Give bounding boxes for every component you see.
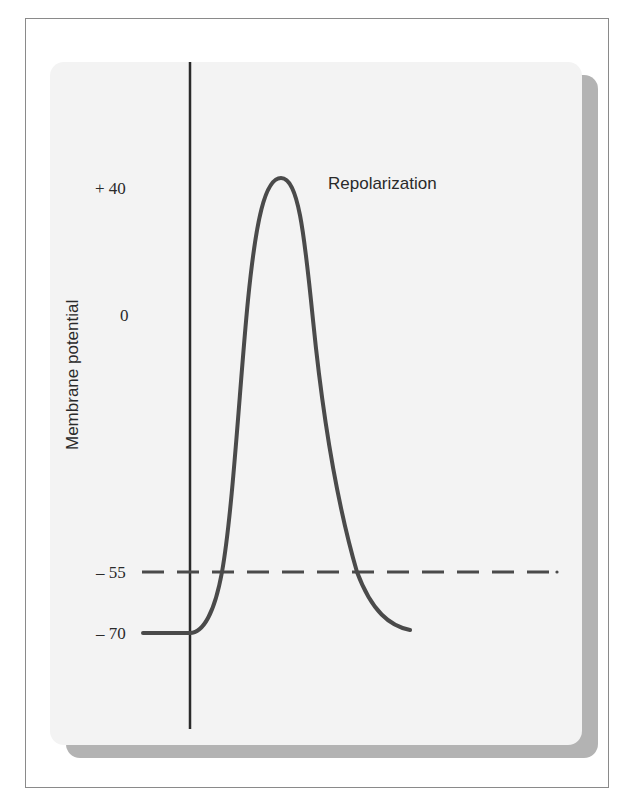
y-tick-minus-55: – 55 bbox=[96, 564, 126, 581]
action-potential-curve bbox=[143, 178, 410, 633]
repolarization-label: Repolarization bbox=[328, 174, 437, 194]
action-potential-plot bbox=[0, 0, 640, 804]
y-tick-plus-40: + 40 bbox=[95, 180, 126, 197]
y-tick-minus-70: – 70 bbox=[96, 625, 126, 642]
y-axis-title: Membrane potential bbox=[63, 300, 83, 450]
threshold-end-dot bbox=[555, 570, 558, 573]
y-tick-zero: 0 bbox=[120, 307, 129, 324]
